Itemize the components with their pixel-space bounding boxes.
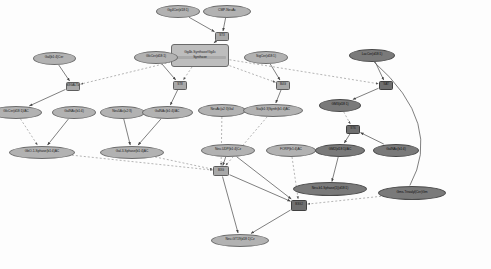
metabolite-node[interactable]: GbO-1-Sphase(b1:4)AC <box>9 146 75 159</box>
node-label: GlcCer(d18:1)/AC <box>3 110 28 113</box>
metabolite-node[interactable]: CMP-NeuAc <box>203 5 251 18</box>
node-label-line-2: Synthase <box>174 56 226 59</box>
edge <box>344 134 350 143</box>
metabolite-node[interactable]: Gg4Cer(d18:1) <box>156 5 200 18</box>
edge <box>361 133 384 144</box>
metabolite-node[interactable]: GM2(d18:1)/AC <box>315 144 365 157</box>
metabolite-node[interactable]: GM3(d18:1) <box>319 99 361 112</box>
edge <box>170 90 177 105</box>
node-label: B3G2 <box>295 203 303 206</box>
reaction-node[interactable]: B3G <box>213 166 229 176</box>
metabolite-node[interactable]: NeuAc(a2:3)Gal <box>198 104 246 117</box>
node-label: GalNAc(b1:4) <box>386 148 405 151</box>
reaction-node[interactable]: ST8 <box>173 81 187 90</box>
reaction-node[interactable]: B4G <box>276 81 290 90</box>
edge <box>230 66 276 83</box>
edge <box>221 117 222 166</box>
node-label: SigCer(d18:1) <box>256 55 276 58</box>
metabolite-node[interactable]: SigCer(d18:1) <box>244 51 288 64</box>
node-label: B3GALT4 <box>67 84 80 87</box>
node-label: SAT <box>383 83 389 86</box>
node-label: GalNAc(b1:4) <box>64 110 83 113</box>
edge <box>189 17 215 32</box>
metabolite-node[interactable]: LacCer(d18:1) <box>349 49 395 62</box>
node-label: ST3 <box>219 34 225 37</box>
node-label: Neu-b1-Sphase(1)(d18:1) <box>312 187 348 190</box>
metabolite-node[interactable]: GlcCer(d18:1)/AC <box>0 106 42 119</box>
metabolite-node[interactable]: Sia(b1:3)Synth(b1:4)AC <box>243 104 303 117</box>
metabolite-node[interactable]: GalNAc(b1:4) <box>373 144 419 157</box>
reaction-node[interactable]: B3GALT4 <box>66 82 80 91</box>
edge <box>214 41 216 43</box>
edge <box>332 157 338 182</box>
node-label: B3G <box>218 169 224 172</box>
node-label: Gms-Trisialyl(Cer)Gm <box>397 191 428 194</box>
metabolite-node[interactable]: Neu5Ac(a2:3) <box>100 106 145 119</box>
edge <box>81 62 171 84</box>
edge <box>353 88 379 99</box>
reaction-node[interactable]: SAT <box>379 81 393 90</box>
edge <box>226 117 267 166</box>
node-label: Gg4Cer(d18:1) <box>167 9 188 12</box>
edge <box>344 112 351 124</box>
metabolite-node[interactable]: Neu-b1-Sphase(1)(d18:1) <box>293 182 367 196</box>
edge <box>270 64 280 80</box>
metabolite-node[interactable]: Gal-3-Sphase(b1:4)AC <box>100 146 164 159</box>
edge <box>29 89 65 106</box>
edge <box>223 18 226 31</box>
edge <box>251 210 291 233</box>
edge <box>292 157 298 199</box>
node-label: Gal-3-Sphase(b1:4)AC <box>116 150 149 153</box>
edge-layer <box>0 0 491 269</box>
reaction-node[interactable]: ST3 <box>215 32 229 41</box>
node-label: Neu5Ac(a2:3) <box>112 110 132 113</box>
node-label: Neu-GT19(d18:1)Cz <box>225 238 254 241</box>
enzyme-complex-node[interactable]: Gg4b-Synthase/Gg4cSynthase <box>171 44 229 67</box>
metabolite-node[interactable]: GalNAc(b1:4) <box>52 106 96 119</box>
edge <box>308 196 382 204</box>
metabolite-node[interactable]: Neu-GT19(d18:1)Cz <box>211 234 269 247</box>
metabolite-node[interactable]: Gal(b1:4)Cer <box>33 52 76 65</box>
edge <box>20 119 37 145</box>
node-label: GM2(d18:1)/AC <box>329 148 351 151</box>
edge <box>48 119 69 145</box>
node-label: GlcCer(d18:1) <box>146 55 166 58</box>
node-label: GbO-1-Sphase(b1:4)AC <box>25 150 59 153</box>
node-label: NeuAc(a2:3)Gal <box>211 108 234 111</box>
metabolite-node[interactable]: GalNAc(b1:4)/AC <box>142 106 193 119</box>
node-label: GM3(d18:1) <box>331 103 348 106</box>
edge <box>183 67 192 80</box>
node-label: LacCer(d18:1) <box>362 53 382 56</box>
edge <box>59 65 70 81</box>
edge <box>124 119 131 145</box>
metabolite-node[interactable]: FORP(b1:4)AC <box>266 144 316 157</box>
edge <box>276 90 281 103</box>
node-label: Gal(b1:4)Cer <box>45 56 63 59</box>
metabolite-node[interactable]: Neu-UDP(b1:4)Cz <box>201 144 255 157</box>
edge <box>223 157 226 166</box>
node-label: B4G <box>280 83 286 86</box>
node-label: Sia(b1:3)Synth(b1:4)AC <box>256 108 290 111</box>
metabolite-node[interactable]: GlcCer(d18:1) <box>134 51 178 64</box>
reaction-node[interactable]: ST6 <box>346 125 360 134</box>
metabolite-node[interactable]: Gms-Trisialyl(Cer)Gm <box>378 186 446 200</box>
reaction-node[interactable]: B3G2 <box>291 200 307 211</box>
node-label-line-1: Gg4b-Synthase/Gg4c <box>184 51 216 54</box>
node-label: FORP(b1:4)AC <box>280 148 302 151</box>
edge <box>230 175 291 202</box>
node-label: Neu-UDP(b1:4)Cz <box>215 148 241 151</box>
reaction-network-diagram: Gg4Cer(d18:1)CMP-NeuAcST3Gg4b-Synthase/G… <box>0 0 491 269</box>
edge <box>237 157 292 199</box>
node-label: GalNAc(b1:4)/AC <box>155 110 180 113</box>
node-label: CMP-NeuAc <box>218 9 236 12</box>
edge <box>138 119 161 145</box>
node-label: ST6 <box>350 127 356 130</box>
node-label: ST8 <box>177 83 183 86</box>
edge <box>230 60 379 84</box>
edge <box>223 177 239 234</box>
